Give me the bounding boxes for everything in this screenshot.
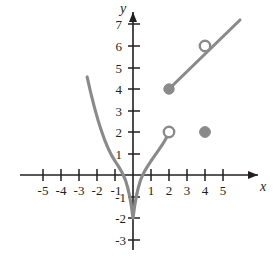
- coordinate-plane-svg: -5 -4 -3 -2 -1 1 2 3 4 5 7 6: [0, 0, 278, 257]
- y-axis-label: y: [118, 1, 127, 16]
- axes-group: [20, 12, 258, 250]
- y-tick-label-5: 5: [116, 61, 123, 76]
- filled-dot-line-start: [164, 84, 174, 94]
- y-axis-tick-labels: 7 6 5 4 3 2 1 -1 -2 -3: [115, 17, 126, 248]
- filled-dot-isolated: [200, 127, 211, 138]
- line-segment-curve: [169, 20, 240, 89]
- x-tick-label-2: 2: [166, 183, 173, 198]
- open-circle-parabola-end: [164, 127, 174, 137]
- y-tick-label-6: 6: [116, 39, 123, 54]
- y-tick-label-3: 3: [116, 104, 123, 119]
- x-tick-label--3: -3: [74, 183, 85, 198]
- x-axis-tick-labels: -5 -4 -3 -2 -1 1 2 3 4 5: [38, 183, 227, 198]
- x-tick-label-4: 4: [202, 183, 209, 198]
- x-tick-label--4: -4: [56, 183, 67, 198]
- y-axis-arrow-icon: [129, 12, 137, 22]
- x-axis-arrow-icon: [248, 171, 258, 179]
- x-tick-label-3: 3: [184, 183, 191, 198]
- x-tick-label--2: -2: [92, 183, 103, 198]
- x-axis-label: x: [259, 179, 267, 194]
- y-tick-label--3: -3: [115, 233, 126, 248]
- x-tick-label-1: 1: [148, 183, 155, 198]
- y-tick-label-4: 4: [116, 82, 123, 97]
- y-tick-label--2: -2: [115, 211, 126, 226]
- graph-figure: -5 -4 -3 -2 -1 1 2 3 4 5 7 6: [0, 0, 278, 257]
- y-tick-label-2: 2: [116, 125, 123, 140]
- open-circle-line-hole: [200, 41, 210, 51]
- y-tick-label-7: 7: [116, 17, 123, 32]
- y-tick-label--1: -1: [115, 190, 126, 205]
- x-tick-label--5: -5: [38, 183, 49, 198]
- y-tick-label-1: 1: [116, 147, 123, 162]
- x-tick-label-5: 5: [220, 183, 227, 198]
